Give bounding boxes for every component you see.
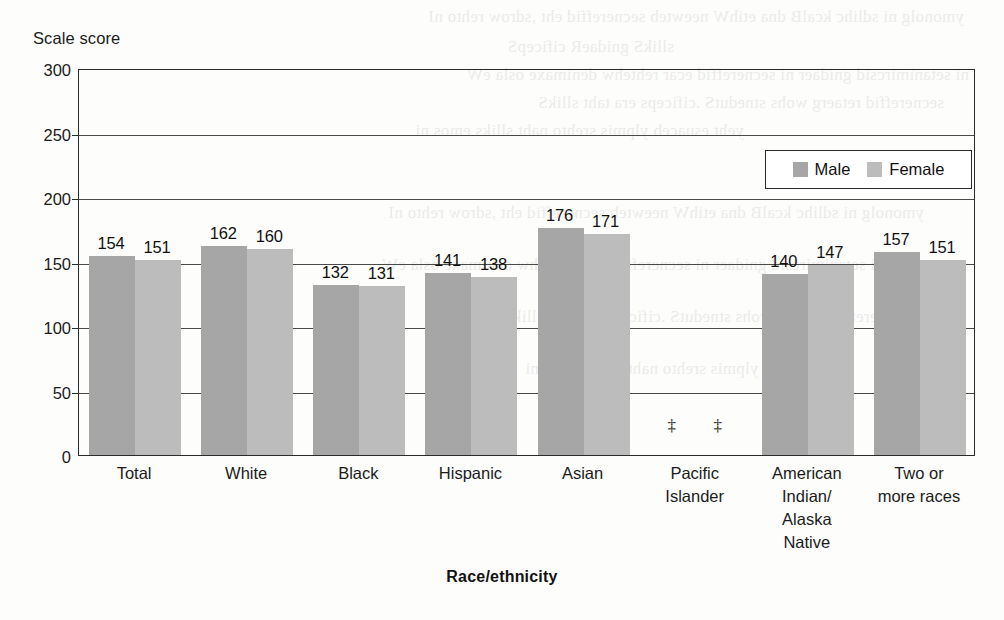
x-axis-category-label: Hispanic	[439, 462, 502, 485]
bar-value-label: 154	[98, 234, 125, 253]
bar-value-label: 138	[480, 255, 507, 274]
y-tick-label: 200	[13, 190, 71, 209]
gridline	[79, 199, 974, 200]
y-tick-label: 100	[13, 319, 71, 338]
y-tick-label: 0	[13, 448, 71, 467]
chart-legend: Male Female	[765, 150, 972, 189]
bleed-line: sllikS gnidaeR cificepS	[508, 34, 675, 59]
y-tick-mark	[72, 135, 79, 136]
bar-female	[359, 286, 405, 455]
bar-male	[425, 273, 471, 455]
bar-female	[471, 277, 517, 455]
bar-value-label: 171	[592, 212, 619, 231]
x-axis-category-label: Asian	[562, 462, 603, 485]
bar-value-label: 140	[770, 252, 797, 271]
legend-item-female: Female	[867, 160, 944, 179]
plot-area: 050100150200250300	[78, 69, 975, 456]
bar-female	[135, 260, 181, 455]
bar-male	[762, 274, 808, 455]
x-axis-title: Race/ethnicity	[0, 568, 1004, 586]
y-tick-mark	[72, 393, 79, 394]
x-axis-category-label: Black	[338, 462, 378, 485]
bar-male	[313, 285, 359, 455]
x-axis-category-label: Pacific Islander	[665, 462, 724, 508]
bar-male	[874, 252, 920, 455]
bar-value-label: 162	[210, 224, 237, 243]
bar-value-label: 131	[368, 264, 395, 283]
y-tick-mark	[72, 264, 79, 265]
x-axis-category-label: Two or more races	[878, 462, 961, 508]
y-tick-label: 50	[13, 383, 71, 402]
bar-male	[201, 246, 247, 455]
legend-label-female: Female	[889, 160, 944, 179]
bar-value-label: 157	[882, 230, 909, 249]
bar-value-label: 141	[434, 251, 461, 270]
legend-swatch-male-icon	[793, 162, 808, 177]
y-tick-label: 150	[13, 254, 71, 273]
bar-value-label: 160	[256, 227, 283, 246]
y-tick-label: 250	[13, 125, 71, 144]
chart-page: ymonolg ni sdlihc kcalB dna etihW neewte…	[0, 0, 1004, 620]
bar-value-label: 147	[816, 243, 843, 262]
suppressed-data-marker: ‡	[713, 416, 722, 436]
bar-female	[584, 234, 630, 455]
y-tick-mark	[72, 199, 79, 200]
suppressed-data-marker: ‡	[667, 416, 676, 436]
bar-value-label: 176	[546, 206, 573, 225]
gridline	[79, 135, 974, 136]
bar-value-label: 132	[322, 263, 349, 282]
x-axis-category-label: American Indian/ Alaska Native	[772, 462, 842, 554]
legend-item-male: Male	[793, 160, 851, 179]
y-axis-title: Scale score	[33, 29, 120, 48]
legend-label-male: Male	[815, 160, 851, 179]
bar-male	[89, 256, 135, 455]
bar-value-label: 151	[928, 238, 955, 257]
x-axis-category-label: Total	[117, 462, 152, 485]
y-tick-mark	[72, 328, 79, 329]
bleed-line: ymonolg ni sdlihc kcalB dna etihW neewte…	[428, 4, 964, 29]
y-tick-label: 300	[13, 61, 71, 80]
bar-male	[538, 228, 584, 455]
legend-swatch-female-icon	[867, 162, 882, 177]
bar-female	[808, 265, 854, 455]
bar-value-label: 151	[144, 238, 171, 257]
bar-female	[920, 260, 966, 455]
x-axis-category-label: White	[225, 462, 267, 485]
bar-female	[247, 249, 293, 455]
